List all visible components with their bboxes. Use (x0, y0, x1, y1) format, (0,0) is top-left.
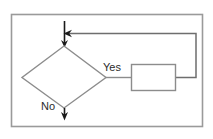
process-box (132, 65, 176, 91)
flowchart-canvas: Yes No (0, 0, 213, 139)
no-branch-label: No (41, 100, 55, 112)
flowchart-svg: Yes No (0, 0, 213, 139)
yes-branch-label: Yes (103, 61, 121, 73)
